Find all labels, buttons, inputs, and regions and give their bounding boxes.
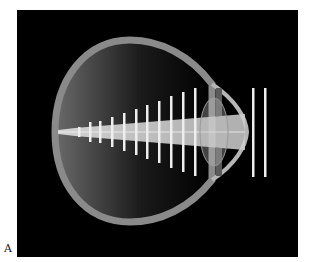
panel-label: A	[4, 242, 12, 255]
lens	[200, 98, 228, 166]
eye-diagram	[0, 0, 311, 262]
external-bars	[252, 88, 267, 177]
